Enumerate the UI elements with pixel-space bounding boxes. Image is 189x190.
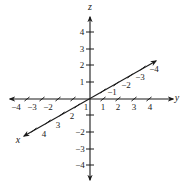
z-tick-label: −2 <box>75 127 85 137</box>
x-tick-label: 1 <box>84 102 89 112</box>
z-tick-label: −3 <box>75 144 85 154</box>
y-tick-label: 1 <box>101 102 106 112</box>
y-tick-label: 3 <box>132 102 137 112</box>
y-tick-label: −2 <box>43 102 53 112</box>
z-tick-label: 2 <box>80 60 85 70</box>
x-axis-label: x <box>15 134 21 145</box>
x-tick-mark <box>75 104 80 108</box>
x-tick-label: 2 <box>70 111 75 121</box>
x-tick-mark <box>32 128 37 132</box>
x-tick-label: −2 <box>121 80 131 90</box>
axes-canvas: 4321−2−3−4z −4−3−21234y 4321−1−2−3−4x <box>0 0 189 190</box>
z-axis-label: z <box>87 1 92 12</box>
x-tick-mark <box>114 82 119 86</box>
y-tick-label: 4 <box>148 102 153 112</box>
y-axis: −4−3−21234y <box>10 92 180 112</box>
x-tick-label: 3 <box>56 120 61 130</box>
x-tick-label: 4 <box>42 129 47 139</box>
z-tick-label: −4 <box>75 160 85 170</box>
z-tick-label: 3 <box>80 44 85 54</box>
z-axis: 4321−2−3−4z <box>75 1 94 180</box>
x-tick-label: −4 <box>149 64 159 74</box>
x-tick-mark <box>128 74 133 78</box>
y-tick-label: 2 <box>116 102 121 112</box>
x-tick-label: −3 <box>135 72 145 82</box>
y-tick-label: −4 <box>11 102 21 112</box>
y-axis-label: y <box>174 92 180 103</box>
axes-diagram: 4321−2−3−4z −4−3−21234y 4321−1−2−3−4x <box>0 0 189 190</box>
z-tick-label: 1 <box>80 77 85 87</box>
x-tick-mark <box>101 89 106 93</box>
z-tick-label: 4 <box>80 27 85 37</box>
x-tick-label: −1 <box>107 87 117 97</box>
y-tick-label: −3 <box>27 102 37 112</box>
